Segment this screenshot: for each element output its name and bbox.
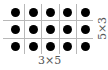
- dot: [63, 25, 72, 34]
- dot: [46, 8, 55, 17]
- grid-line-vertical: [76, 4, 77, 54]
- dot: [81, 8, 90, 17]
- dot: [81, 42, 90, 51]
- dot: [29, 25, 38, 34]
- grid-line-vertical: [24, 4, 25, 54]
- dot: [46, 25, 55, 34]
- dot: [63, 8, 72, 17]
- dot: [63, 42, 72, 51]
- grid-line-vertical: [59, 4, 60, 54]
- label-cols-by-rows: 5×3: [96, 17, 108, 40]
- dot: [11, 25, 20, 34]
- grid-line-vertical: [41, 4, 42, 54]
- dot: [46, 42, 55, 51]
- dot: [81, 25, 90, 34]
- dot: [11, 42, 20, 51]
- dot: [29, 8, 38, 17]
- label-rows-by-cols: 3×5: [38, 54, 61, 67]
- dot: [11, 8, 20, 17]
- dot: [29, 42, 38, 51]
- grid-line-horizontal: [3, 38, 93, 39]
- grid-line-horizontal: [3, 20, 93, 21]
